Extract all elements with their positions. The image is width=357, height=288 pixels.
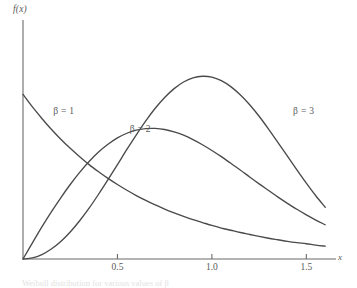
curve-series-1 [23,94,325,246]
x-axis-tick-label: 1.5 [300,262,312,272]
series-label-1: β = 1 [53,106,74,116]
figure-caption: Weibull distribution for various values … [22,278,342,288]
curve-series-2 [23,128,325,259]
curve-group [23,76,325,259]
x-axis-label: x [338,252,342,262]
y-axis-label: f(x) [13,4,27,14]
x-axis-ticks [117,254,306,259]
x-axis-tick-label: 1.0 [206,262,218,272]
series-label-2: β = 2 [130,124,151,134]
series-label-3: β = 3 [293,106,314,116]
x-axis-tick-label: 0.5 [112,262,124,272]
plot-area [0,0,357,288]
curve-series-3 [23,76,325,259]
weibull-distribution-figure: f(x) x 0.51.01.5 β = 1β = 2β = 3 Weibull… [0,0,357,288]
